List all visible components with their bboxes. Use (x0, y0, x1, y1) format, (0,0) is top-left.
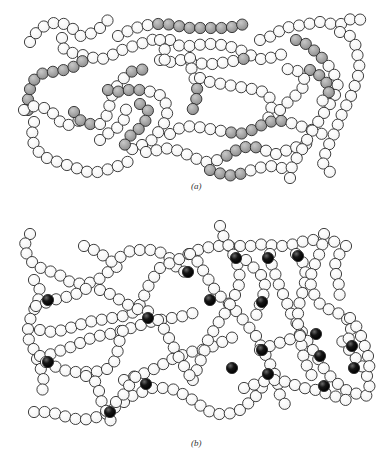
monomer-bead (306, 369, 317, 380)
monomer-bead (350, 39, 361, 50)
monomer-bead (45, 326, 56, 337)
crosslink-bead (256, 296, 267, 307)
crosslink-bead (292, 250, 303, 261)
monomer-bead (134, 244, 145, 255)
monomer-bead (184, 121, 195, 132)
monomer-bead (196, 58, 207, 69)
crosslink-bead (318, 380, 329, 391)
monomer-bead (345, 14, 356, 25)
monomer-bead (55, 345, 66, 356)
monomer-bead (294, 330, 305, 341)
monomer-bead (317, 95, 328, 106)
monomer-bead (151, 145, 162, 156)
monomer-bead (122, 156, 133, 167)
crosslink-bead (104, 406, 115, 417)
crystalline-bead (102, 84, 113, 95)
monomer-bead (102, 164, 113, 175)
monomer-bead (246, 83, 257, 94)
monomer-bead (226, 332, 237, 343)
monomer-bead (204, 76, 215, 87)
crystalline-bead (236, 128, 247, 139)
monomer-bead (27, 127, 38, 138)
monomer-bead (118, 114, 129, 125)
monomer-bead (282, 64, 293, 75)
crystalline-bead (195, 22, 206, 33)
monomer-bead (297, 287, 308, 298)
crosslink-bead (226, 362, 237, 373)
crystalline-bead (119, 139, 130, 150)
monomer-bead (127, 41, 138, 52)
monomer-bead (217, 57, 228, 68)
monomer-bead (226, 42, 237, 53)
monomer-bead (284, 334, 295, 345)
monomer-bead (194, 39, 205, 50)
monomer-bead (215, 78, 226, 89)
crosslink-bead (42, 294, 53, 305)
monomer-bead (359, 340, 370, 351)
monomer-bead (184, 370, 195, 381)
monomer-bead (39, 406, 50, 417)
monomer-bead (28, 116, 39, 127)
panel-b-caption: (b) (191, 438, 202, 448)
monomer-bead (286, 162, 297, 173)
monomer-bead (28, 101, 39, 112)
panel-b-crosslinked-network (20, 220, 375, 426)
monomer-bead (92, 166, 103, 177)
panel-a-semicrystalline-chains (18, 14, 365, 184)
monomer-bead (56, 32, 67, 43)
crosslink-bead (204, 294, 215, 305)
monomer-bead (255, 53, 266, 64)
monomer-bead (318, 228, 329, 239)
monomer-bead (166, 312, 177, 323)
crosslink-bead (230, 252, 241, 263)
monomer-bead (80, 283, 91, 294)
panel-a-caption: (a) (191, 181, 202, 191)
monomer-bead (330, 258, 341, 269)
monomer-bead (304, 18, 315, 29)
monomer-bead (25, 313, 36, 324)
monomer-bead (225, 80, 236, 91)
monomer-bead (140, 146, 151, 157)
monomer-bead (88, 52, 99, 63)
monomer-bead (48, 18, 59, 29)
crystalline-bead (216, 22, 227, 33)
monomer-bead (294, 20, 305, 31)
monomer-bead (245, 240, 256, 251)
crystalline-bead (142, 105, 153, 116)
monomer-bead (305, 279, 316, 290)
monomer-bead (22, 324, 33, 335)
monomer-bead (202, 335, 213, 346)
monomer-bead (50, 408, 61, 419)
monomer-bead (330, 391, 341, 402)
monomer-bead (117, 44, 128, 55)
monomer-bead (159, 44, 170, 55)
monomer-bead (184, 52, 195, 63)
crystalline-bead (250, 142, 261, 153)
crystalline-bead (192, 83, 203, 94)
monomer-bead (245, 165, 256, 176)
monomer-bead (70, 413, 81, 424)
monomer-bead (205, 38, 216, 49)
polymer-chain-figure (0, 0, 391, 460)
monomer-bead (91, 366, 102, 377)
crystalline-bead (187, 103, 198, 114)
monomer-bead (177, 311, 188, 322)
monomer-bead (120, 104, 131, 115)
crystalline-bead (77, 56, 88, 67)
monomer-bead (161, 143, 172, 154)
crystalline-bead (215, 168, 226, 179)
monomer-bead (60, 411, 71, 422)
monomer-bead (104, 100, 115, 111)
monomer-bead (279, 376, 290, 387)
crystalline-bead (191, 93, 202, 104)
monomer-bead (330, 268, 341, 279)
monomer-bead (292, 308, 303, 319)
monomer-bead (51, 156, 62, 167)
monomer-bead (86, 316, 97, 327)
monomer-bead (137, 38, 148, 49)
crosslink-bead (310, 328, 321, 339)
monomer-bead (306, 269, 317, 280)
crystalline-bead (153, 18, 164, 29)
monomer-bead (81, 166, 92, 177)
monomer-bead (76, 319, 87, 330)
